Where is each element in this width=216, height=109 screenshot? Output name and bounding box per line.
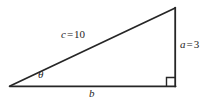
- opposite-side-variable: a: [180, 38, 186, 50]
- opposite-side-label: a=3: [180, 39, 199, 50]
- hypotenuse-label: c=10: [61, 29, 85, 40]
- opposite-side-value: 3: [194, 38, 200, 50]
- triangle-drawing: [0, 0, 216, 109]
- opposite-side-equals-sign: =: [186, 38, 194, 50]
- hypotenuse-line-c: [10, 8, 175, 86]
- angle-theta-label: θ: [38, 69, 43, 80]
- hypotenuse-value: 10: [74, 28, 85, 40]
- hypotenuse-equals-sign: =: [66, 28, 74, 40]
- triangle-figure: c=10 a=3 θ b: [0, 0, 216, 109]
- adjacent-side-label: b: [89, 88, 95, 99]
- right-angle-marker-icon: [167, 78, 176, 87]
